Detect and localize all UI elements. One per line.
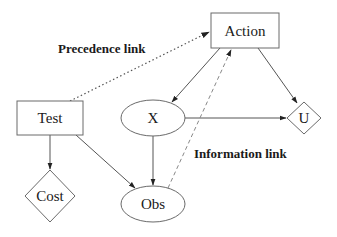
node-u-label: U	[299, 110, 310, 126]
node-cost: Cost	[25, 170, 75, 222]
node-action: Action	[211, 13, 279, 48]
node-test-label: Test	[38, 110, 64, 126]
node-cost-label: Cost	[36, 188, 64, 204]
node-x: X	[121, 100, 185, 136]
node-obs: Obs	[121, 186, 185, 222]
node-u: U	[287, 102, 321, 134]
influence-diagram: Action Test X U Cost Obs Precedence link…	[0, 0, 337, 237]
edge-test-obs	[76, 135, 135, 188]
node-obs-label: Obs	[141, 196, 165, 212]
edge-action-u	[258, 48, 297, 103]
node-x-label: X	[148, 110, 159, 126]
edge-action-x	[172, 48, 220, 102]
information-link-label: Information link	[194, 146, 288, 161]
node-action-label: Action	[225, 23, 266, 39]
node-test: Test	[17, 101, 83, 135]
precedence-link-label: Precedence link	[58, 41, 146, 56]
